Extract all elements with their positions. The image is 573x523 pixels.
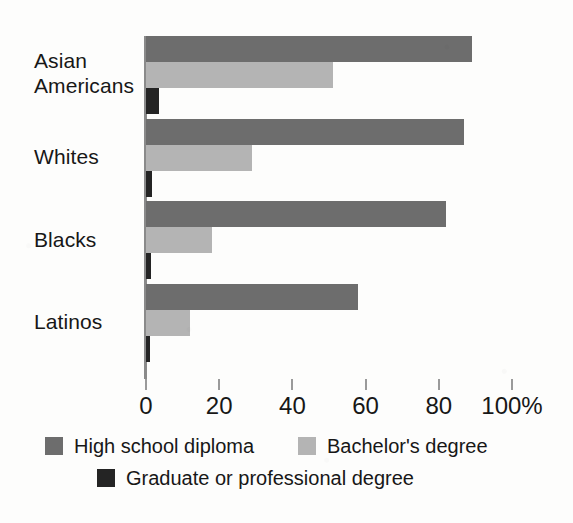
legend-entry-bachelors-degree: Bachelor's degree (298, 434, 488, 458)
legend-label-bachelors: Bachelor's degree (327, 434, 488, 458)
legend-label-high-school: High school diploma (74, 434, 254, 458)
x-tick-mark-40 (291, 379, 293, 390)
legend-swatch-icon-graduate (97, 469, 115, 487)
bar-blacks-high-school (146, 201, 446, 227)
x-tick-label-0: 0 (139, 392, 152, 420)
category-label-blacks: Blacks (34, 227, 96, 252)
chart-legend: High school diploma Bachelor's degree Gr… (0, 432, 573, 512)
bar-whites-high-school (146, 119, 464, 145)
bar-blacks-bachelors (146, 227, 212, 253)
x-tick-mark-80 (438, 379, 440, 390)
bar-whites-bachelors (146, 145, 252, 171)
x-tick-label-20: 20 (206, 392, 233, 420)
x-tick-mark-0 (145, 379, 147, 390)
bar-asian-americans-graduate (146, 88, 159, 114)
x-tick-label-60: 60 (352, 392, 379, 420)
bar-latinos-bachelors (146, 310, 190, 336)
x-axis: 0 20 40 60 80 100% (146, 379, 512, 427)
bar-whites-graduate (146, 171, 152, 197)
bar-latinos-high-school (146, 284, 358, 310)
legend-label-graduate: Graduate or professional degree (126, 466, 414, 490)
bar-blacks-graduate (146, 253, 151, 279)
horizontal-bar-chart: Asian Americans Whites Blacks Latinos (0, 0, 573, 523)
plot-area (146, 36, 512, 379)
x-tick-label-80: 80 (425, 392, 452, 420)
x-tick-mark-100 (511, 379, 513, 390)
bar-asian-americans-high-school (146, 36, 472, 62)
bar-asian-americans-bachelors (146, 62, 333, 88)
legend-swatch-icon-high-school (45, 437, 63, 455)
category-label-asian-americans: Asian Americans (34, 48, 134, 98)
x-tick-mark-20 (218, 379, 220, 390)
category-label-latinos: Latinos (34, 309, 102, 334)
category-axis-labels: Asian Americans Whites Blacks Latinos (0, 0, 138, 400)
bar-latinos-graduate (146, 336, 150, 362)
category-label-whites: Whites (34, 144, 99, 169)
legend-swatch-icon-bachelors (298, 437, 316, 455)
x-tick-mark-60 (365, 379, 367, 390)
x-tick-label-40: 40 (279, 392, 306, 420)
x-tick-label-100: 100% (481, 392, 542, 420)
legend-entry-high-school-diploma: High school diploma (45, 434, 254, 458)
legend-entry-graduate-degree: Graduate or professional degree (97, 466, 414, 490)
